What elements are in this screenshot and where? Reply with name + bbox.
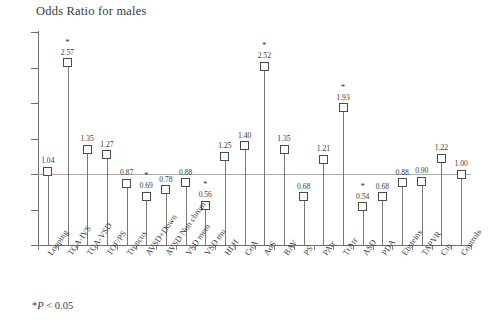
data-point-marker[interactable] bbox=[161, 185, 170, 194]
data-point-marker[interactable] bbox=[181, 178, 190, 187]
data-point-marker[interactable] bbox=[417, 177, 426, 186]
significance-star: * bbox=[190, 181, 220, 188]
significance-star: * bbox=[53, 39, 83, 46]
data-point-marker[interactable] bbox=[43, 167, 52, 176]
data-point-stem bbox=[284, 149, 285, 245]
data-point-marker[interactable] bbox=[63, 58, 72, 67]
significance-star: * bbox=[328, 84, 358, 91]
data-point-value-label: 2.52 bbox=[249, 51, 279, 60]
significance-footnote: *P < 0.05 bbox=[32, 300, 73, 311]
data-point-marker[interactable] bbox=[260, 62, 269, 71]
data-point-value-label: 1.93 bbox=[328, 93, 358, 102]
x-axis-category-label: Controls bbox=[459, 228, 483, 257]
footnote-threshold: < 0.05 bbox=[44, 300, 74, 311]
data-point-value-label: 0.88 bbox=[171, 168, 201, 177]
y-tick-mark bbox=[31, 245, 38, 246]
data-point-stem bbox=[382, 197, 383, 245]
data-point-marker[interactable] bbox=[142, 192, 151, 201]
data-point-marker[interactable] bbox=[378, 192, 387, 201]
data-point-value-label: 2.57 bbox=[53, 48, 83, 57]
data-point-value-label: 1.27 bbox=[92, 140, 122, 149]
data-point-marker[interactable] bbox=[457, 170, 466, 179]
data-point-marker[interactable] bbox=[358, 202, 367, 211]
data-point-value-label: 1.35 bbox=[269, 134, 299, 143]
data-point-marker[interactable] bbox=[437, 154, 446, 163]
data-point-stem bbox=[245, 146, 246, 245]
data-point-marker[interactable] bbox=[339, 103, 348, 112]
data-point-marker[interactable] bbox=[319, 155, 328, 164]
y-tick-mark bbox=[31, 68, 38, 69]
data-point-value-label: 0.90 bbox=[407, 166, 437, 175]
y-tick-mark bbox=[31, 103, 38, 104]
data-point-marker[interactable] bbox=[83, 145, 92, 154]
data-point-stem bbox=[68, 63, 69, 245]
data-point-value-label: 1.21 bbox=[308, 144, 338, 153]
data-point-stem bbox=[323, 159, 324, 245]
data-point-stem bbox=[402, 183, 403, 245]
y-tick-mark bbox=[31, 174, 38, 175]
data-point-marker[interactable] bbox=[220, 152, 229, 161]
data-point-value-label: 1.04 bbox=[33, 156, 63, 165]
data-point-value-label: 1.25 bbox=[210, 141, 240, 150]
data-point-marker[interactable] bbox=[398, 178, 407, 187]
data-point-stem bbox=[461, 174, 462, 245]
data-point-value-label: 1.40 bbox=[230, 131, 260, 140]
data-point-marker[interactable] bbox=[240, 141, 249, 150]
data-point-value-label: 1.00 bbox=[446, 159, 476, 168]
data-point-stem bbox=[343, 108, 344, 245]
data-point-marker[interactable] bbox=[102, 150, 111, 159]
data-point-value-label: 0.68 bbox=[367, 182, 397, 191]
data-point-value-label: 0.56 bbox=[190, 190, 220, 199]
y-axis-line bbox=[38, 31, 39, 246]
chart-title: Odds Ratio for males bbox=[36, 4, 147, 19]
odds-ratio-chart-figure: Odds Ratio for males 00.511.522.53 1.042… bbox=[0, 0, 493, 324]
y-tick-mark bbox=[31, 210, 38, 211]
data-point-stem bbox=[304, 197, 305, 245]
data-point-stem bbox=[146, 196, 147, 245]
significance-star: * bbox=[249, 42, 279, 49]
data-point-stem bbox=[264, 66, 265, 245]
data-point-marker[interactable] bbox=[280, 145, 289, 154]
data-point-value-label: 0.54 bbox=[348, 192, 378, 201]
data-point-marker[interactable] bbox=[299, 192, 308, 201]
x-tick-mark bbox=[38, 245, 39, 250]
data-point-stem bbox=[363, 207, 364, 245]
data-point-stem bbox=[441, 158, 442, 245]
y-tick-mark bbox=[31, 139, 38, 140]
y-tick-mark bbox=[31, 32, 38, 33]
data-point-stem bbox=[48, 171, 49, 245]
data-point-value-label: 0.68 bbox=[289, 182, 319, 191]
data-point-marker[interactable] bbox=[122, 179, 131, 188]
data-point-value-label: 1.22 bbox=[426, 143, 456, 152]
